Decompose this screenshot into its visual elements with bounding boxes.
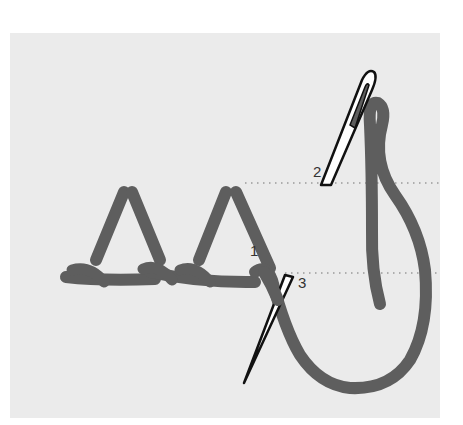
label-point-2: 2: [313, 163, 321, 180]
triangle-1-left-leg: [96, 192, 124, 260]
label-point-1: 1: [250, 242, 258, 259]
triangle-1-right-leg: [132, 192, 160, 260]
stitch-diagram: 1 2 3: [0, 0, 463, 425]
base-stitch-1: [66, 277, 155, 280]
label-point-3: 3: [298, 274, 306, 291]
triangle-2-left-leg: [199, 192, 226, 260]
completed-stitches: [66, 192, 270, 282]
